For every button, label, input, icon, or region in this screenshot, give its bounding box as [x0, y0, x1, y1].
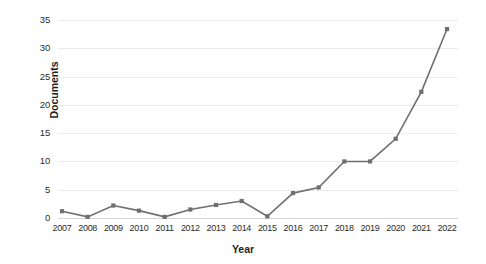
documents-series-line — [62, 29, 447, 217]
data-point-marker — [60, 209, 64, 213]
data-point-marker — [368, 159, 372, 163]
data-point-marker — [394, 137, 398, 141]
data-point-marker — [317, 185, 321, 189]
data-point-marker — [342, 159, 346, 163]
data-point-marker — [163, 215, 167, 219]
x-axis-title: Year — [0, 243, 486, 255]
data-point-marker — [188, 207, 192, 211]
data-point-marker — [214, 203, 218, 207]
data-point-marker — [111, 203, 115, 207]
x-axis-tick-label: 2022 — [430, 223, 464, 233]
data-point-marker — [419, 90, 423, 94]
data-point-marker — [445, 27, 449, 31]
data-point-marker — [291, 191, 295, 195]
documents-series-markers — [60, 27, 449, 219]
data-point-marker — [137, 209, 141, 213]
data-point-marker — [86, 215, 90, 219]
data-point-marker — [240, 199, 244, 203]
data-point-marker — [265, 214, 269, 218]
documents-per-year-line-chart: 05101520253035 Documents Year 2007200820… — [0, 0, 486, 264]
